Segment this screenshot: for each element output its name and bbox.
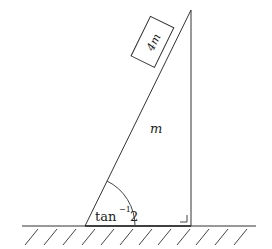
- wedge-mass-label: m: [150, 121, 162, 136]
- incline-diagram: 4m m tan −1 2: [0, 0, 272, 249]
- ground-hatching: [25, 229, 247, 245]
- angle-label-arg: 2: [130, 209, 138, 224]
- block-4m: 4m: [131, 16, 174, 67]
- angle-label-tan: tan: [95, 209, 117, 224]
- right-angle-marker: [180, 215, 187, 222]
